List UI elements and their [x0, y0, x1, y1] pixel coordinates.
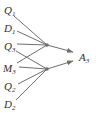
arrow-hub-1-to-A3: [47, 45, 73, 52]
node-label-Q3: Q3: [4, 40, 16, 54]
node-label-Q2: Q2: [4, 80, 16, 94]
edge-D1-to-hub-1: [17, 31, 47, 45]
edge-M3-to-hub-2: [19, 67, 47, 69]
node-label-D1: D1: [3, 22, 15, 36]
fusion-diagram-canvas: Q1D1Q3M3Q2D2A3: [0, 0, 96, 120]
edge-D2-to-hub-2: [16, 69, 47, 100]
node-label-D2: D2: [3, 98, 16, 112]
node-label-A3: A3: [78, 51, 90, 65]
edge-Q3-to-hub-2: [16, 51, 47, 69]
hub-1-junction-dot: [45, 43, 49, 47]
edge-Q3-to-hub-1: [17, 44, 47, 45]
arrow-hub-2-to-A3: [47, 61, 73, 69]
node-label-M3: M3: [2, 62, 16, 76]
edge-Q1-to-hub-1: [14, 16, 47, 45]
node-label-Q1: Q1: [4, 4, 15, 18]
hub-2-junction-dot: [45, 67, 49, 71]
fusion-diagram: Q1D1Q3M3Q2D2A3: [0, 0, 96, 120]
edge-Q2-to-hub-2: [18, 69, 47, 84]
